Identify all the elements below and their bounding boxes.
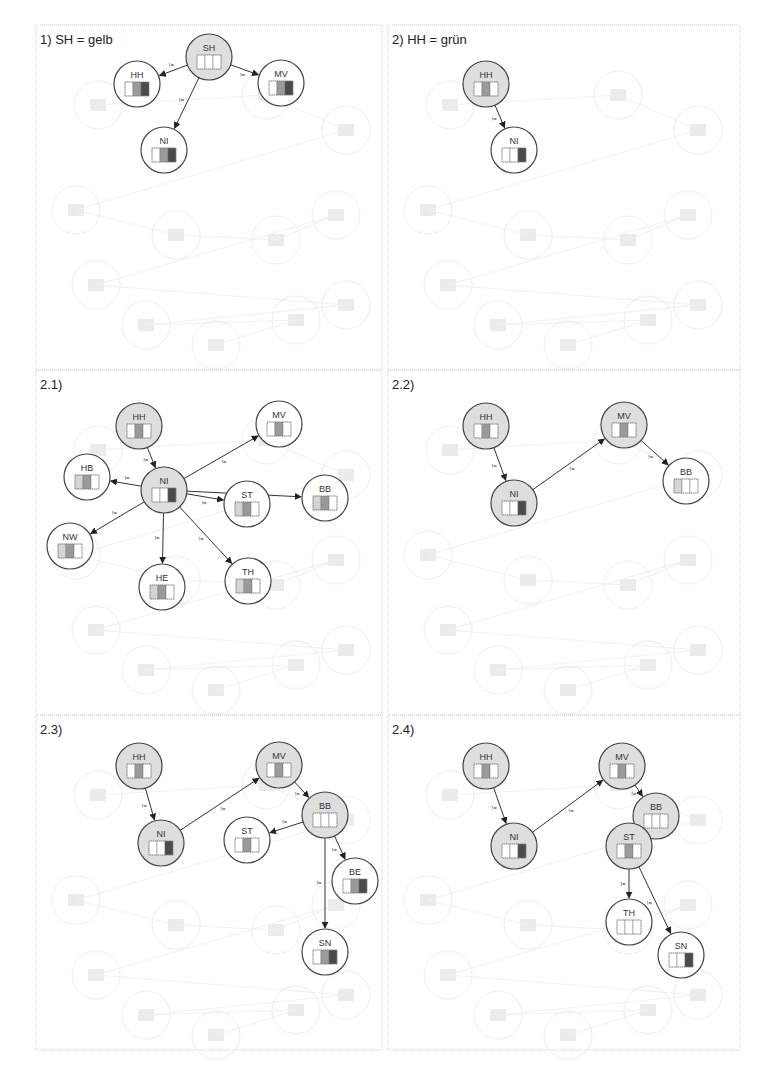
node-MV: MV (599, 743, 645, 789)
edge-label: != (142, 803, 148, 809)
color-bar-3 (490, 424, 498, 438)
color-bar-3 (329, 813, 337, 827)
color-bar-2 (83, 475, 91, 489)
ghost-edge (448, 285, 698, 305)
color-bar-3 (626, 764, 634, 778)
panel-title: 2.3) (40, 722, 62, 737)
ghost-edge (176, 925, 276, 930)
node-NI: NI (491, 127, 537, 173)
node-label: ST (623, 832, 635, 842)
edge-label: != (220, 806, 226, 812)
node-label: NI (160, 476, 169, 486)
edge-label: != (569, 808, 575, 814)
node-label: MV (272, 410, 286, 420)
edge-label: != (221, 459, 227, 465)
background-map-ghost (52, 71, 370, 369)
color-bar-3 (283, 422, 291, 436)
node-label: MV (615, 752, 629, 762)
ghost-edge (76, 210, 176, 235)
color-bar-3 (490, 764, 498, 778)
color-bar-3 (143, 764, 151, 778)
edge-label: != (492, 463, 498, 469)
ghost-edge (448, 215, 688, 285)
color-bar-2 (510, 501, 518, 515)
color-bar-2 (618, 764, 626, 778)
panel-title: 2.2) (392, 377, 414, 392)
color-bar-3 (685, 953, 693, 967)
node-label: NI (160, 136, 169, 146)
color-bar-3 (143, 424, 151, 438)
constraint-graph-figure: 1) SH = gelb!=!=!=SHHHMVNI2) HH = grün!=… (0, 0, 772, 1092)
color-bar-1 (617, 844, 625, 858)
edge-label: != (143, 457, 149, 463)
color-bar-2 (244, 579, 252, 593)
color-bar-2 (158, 585, 166, 599)
color-bar-2 (275, 422, 283, 436)
node-MV: MV (601, 402, 647, 448)
node-BB: BB (663, 458, 709, 504)
panel-p21: 2.1)!=!=!=!=!=!=!=!=HHNIMVHBBBSTNWHETH (36, 370, 382, 715)
node-label: NI (510, 832, 519, 842)
ghost-edge (96, 905, 336, 975)
color-bar-3 (628, 423, 636, 437)
color-bar-2 (135, 764, 143, 778)
edge-NI-HB (111, 481, 142, 486)
node-NI: NI (141, 467, 187, 513)
node-label: SN (319, 938, 332, 948)
color-bar-2 (243, 502, 251, 516)
color-bar-1 (343, 879, 351, 893)
edge-label: != (648, 454, 654, 460)
color-bar-1 (502, 844, 510, 858)
ghost-edge (618, 95, 698, 130)
node-label: NI (510, 489, 519, 499)
color-bar-3 (633, 920, 641, 934)
color-bar-2 (510, 148, 518, 162)
edge-label: != (240, 72, 246, 78)
color-bar-1 (152, 148, 160, 162)
panel-title: 2.4) (392, 722, 414, 737)
color-bar-3 (690, 479, 698, 493)
panel-border (388, 715, 740, 1050)
ghost-edge (528, 235, 628, 240)
ghost-edge (628, 560, 688, 585)
node-label: HH (133, 412, 146, 422)
node-MV: MV (256, 401, 302, 447)
node-SN: SN (658, 932, 704, 978)
panel-p22: 2.2)!=!=!=HHNIMVBB (388, 370, 740, 715)
panel-border (36, 715, 382, 1050)
color-bar-2 (482, 424, 490, 438)
color-bar-3 (329, 950, 337, 964)
edge-label: != (112, 510, 118, 516)
color-bar-1 (127, 424, 135, 438)
color-bar-1 (235, 502, 243, 516)
node-label: NW (63, 532, 78, 542)
color-bar-1 (127, 764, 135, 778)
color-bar-3 (285, 81, 293, 95)
edge-NI-MV (533, 439, 605, 490)
node-label: NI (510, 136, 519, 146)
color-bar-1 (612, 423, 620, 437)
color-bar-3 (518, 501, 526, 515)
edge-NI-TH (180, 507, 232, 563)
color-bar-2 (351, 879, 359, 893)
color-bar-1 (474, 82, 482, 96)
node-label: MV (274, 69, 288, 79)
node-label: BB (650, 802, 662, 812)
ghost-edge (428, 900, 528, 925)
ghost-edge (448, 975, 698, 995)
node-SH: SH (186, 34, 232, 80)
ghost-edge (448, 905, 688, 975)
node-label: BE (349, 867, 361, 877)
node-HH: HH (463, 403, 509, 449)
node-HE: HE (139, 564, 185, 610)
color-bar-2 (160, 148, 168, 162)
color-bar-1 (617, 920, 625, 934)
edge-label: != (179, 97, 185, 103)
node-NI: NI (491, 823, 537, 869)
panel-title: 2) HH = grün (392, 32, 467, 47)
color-bar-2 (160, 488, 168, 502)
color-bar-1 (313, 950, 321, 964)
color-bar-2 (620, 423, 628, 437)
color-bar-2 (510, 844, 518, 858)
ghost-edge (76, 900, 176, 925)
